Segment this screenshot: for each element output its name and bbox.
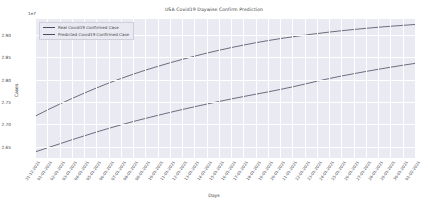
legend-item-real: Real Covid19 Confirmed Case	[43, 25, 129, 30]
gridline-vertical	[170, 19, 171, 158]
gridline-vertical	[145, 19, 146, 158]
gridline-vertical	[121, 19, 122, 158]
gridline-vertical	[72, 19, 73, 158]
gridline-vertical	[329, 19, 330, 158]
gridline-vertical	[194, 19, 195, 158]
plot-area	[35, 19, 415, 158]
gridline-vertical	[243, 19, 244, 158]
gridline-vertical	[341, 19, 342, 158]
gridline-vertical	[280, 19, 281, 158]
series-line-1	[35, 63, 415, 152]
chart-legend: Real Covid19 Confirmed Case Predicted Co…	[39, 22, 134, 40]
gridline-vertical	[47, 19, 48, 158]
gridline-vertical	[366, 19, 367, 158]
gridline-vertical	[354, 19, 355, 158]
y-tick-label: 2.85	[1, 55, 11, 60]
gridline-vertical	[182, 19, 183, 158]
gridline-vertical	[219, 19, 220, 158]
chart-figure: USA Covid19 Daywise Confirm Prediction 1…	[0, 0, 428, 208]
y-tick-label: 2.75	[1, 99, 11, 104]
y-axis-offset-label: 1e7	[28, 11, 36, 16]
gridline-vertical	[207, 19, 208, 158]
y-tick-label: 2.90	[1, 32, 11, 37]
gridline-horizontal	[35, 57, 415, 58]
legend-label-real: Real Covid19 Confirmed Case	[58, 25, 119, 30]
chart-title: USA Covid19 Daywise Confirm Prediction	[0, 7, 428, 12]
gridline-vertical	[256, 19, 257, 158]
gridline-horizontal	[35, 102, 415, 103]
gridline-vertical	[35, 19, 36, 158]
gridline-vertical	[84, 19, 85, 158]
gridline-vertical	[305, 19, 306, 158]
gridline-vertical	[109, 19, 110, 158]
y-tick-label: 2.65	[1, 144, 11, 149]
legend-item-predicted: Predicted Covid19 Confirmed Case	[43, 32, 129, 37]
y-tick-label: 2.80	[1, 77, 11, 82]
y-axis-title: Cases	[14, 61, 19, 121]
gridline-vertical	[292, 19, 293, 158]
gridline-vertical	[231, 19, 232, 158]
gridline-horizontal	[35, 147, 415, 148]
gridline-vertical	[158, 19, 159, 158]
gridline-vertical	[133, 19, 134, 158]
gridline-vertical	[268, 19, 269, 158]
legend-label-predicted: Predicted Covid19 Confirmed Case	[58, 32, 129, 37]
x-axis-title: Days	[0, 193, 428, 198]
gridline-vertical	[317, 19, 318, 158]
series-lines	[35, 19, 415, 158]
gridline-vertical	[403, 19, 404, 158]
gridline-horizontal	[35, 80, 415, 81]
legend-line-swatch	[43, 34, 55, 35]
gridline-vertical	[378, 19, 379, 158]
gridline-vertical	[415, 19, 416, 158]
gridline-vertical	[390, 19, 391, 158]
gridline-vertical	[60, 19, 61, 158]
gridline-horizontal	[35, 124, 415, 125]
gridline-vertical	[96, 19, 97, 158]
legend-line-swatch	[43, 27, 55, 28]
y-tick-label: 2.70	[1, 122, 11, 127]
